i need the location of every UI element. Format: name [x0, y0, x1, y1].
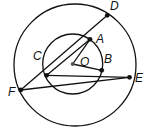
label-F: F	[8, 85, 16, 99]
segment-CE	[47, 75, 130, 77]
geometry-diagram: DAOBCEF	[0, 0, 147, 134]
label-A: A	[95, 32, 104, 46]
label-C: C	[33, 49, 42, 63]
point-O	[71, 62, 75, 66]
label-O: O	[80, 55, 89, 69]
point-F	[18, 88, 23, 93]
label-E: E	[135, 71, 144, 85]
point-D	[105, 13, 110, 18]
point-A	[88, 37, 93, 42]
point-B	[99, 68, 104, 73]
label-D: D	[110, 0, 119, 13]
segment-FE	[21, 77, 130, 90]
point-E	[127, 75, 132, 80]
label-B: B	[104, 52, 112, 66]
point-C	[44, 73, 49, 78]
